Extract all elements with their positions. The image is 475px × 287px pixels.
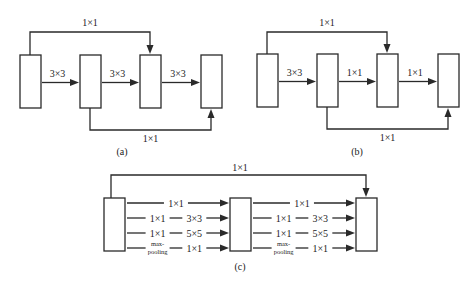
branch-op-label: 1×1 xyxy=(312,243,328,254)
feature-map-block xyxy=(257,54,278,107)
conv-label: 3×3 xyxy=(50,68,66,79)
arrowhead-right-icon xyxy=(346,230,355,237)
arrowhead-down-icon xyxy=(363,188,370,197)
bottom-skip-connection: 1×1 xyxy=(327,107,452,143)
arrowhead-right-icon xyxy=(70,79,79,86)
inception-branch: 1×1 xyxy=(127,198,229,209)
forward-arrow: 3×3 xyxy=(102,68,139,87)
arrowhead-right-icon xyxy=(220,230,229,237)
arrowhead-right-icon xyxy=(130,79,139,86)
arrowhead-right-icon xyxy=(191,79,200,86)
conv-label: 1×1 xyxy=(407,67,423,78)
arrowhead-down-icon xyxy=(384,44,391,53)
arrowhead-right-icon xyxy=(367,78,376,85)
feature-map-block xyxy=(201,55,222,108)
branch-op-label: 3×3 xyxy=(312,213,328,224)
skip-label: 1×1 xyxy=(380,132,396,143)
branch-op-label: 1×1 xyxy=(276,213,292,224)
bottom-skip-connection: 1×1 xyxy=(90,108,215,144)
top-skip-connection: 1×1 xyxy=(30,17,154,55)
feature-map-block xyxy=(80,55,101,108)
feature-map-block xyxy=(140,55,161,108)
branch-op-label: 1×1 xyxy=(294,198,310,209)
conv-label: 3×3 xyxy=(287,67,303,78)
arrowhead-up-icon xyxy=(208,109,215,118)
arrowhead-up-icon xyxy=(445,108,452,117)
branch-op-label: 1×1 xyxy=(150,228,166,239)
branch-op-label: 5×5 xyxy=(186,228,202,239)
arrowhead-right-icon xyxy=(307,78,316,85)
branch-op-label: max- xyxy=(151,240,164,247)
feature-map-block xyxy=(438,54,459,107)
skip-label: 1×1 xyxy=(319,17,335,28)
forward-arrow: 3×3 xyxy=(162,68,200,87)
conv-label: 3×3 xyxy=(170,68,186,79)
branch-op-label: 1×1 xyxy=(186,243,202,254)
feature-map-block xyxy=(104,198,125,251)
inception-branch: max-pooling1×1 xyxy=(127,240,229,255)
feature-map-block xyxy=(356,198,377,251)
skip-line xyxy=(30,32,150,55)
arrowhead-right-icon xyxy=(220,245,229,252)
branch-op-label: 1×1 xyxy=(150,213,166,224)
branch-op-label: pooling xyxy=(274,248,295,255)
branch-op-label: 5×5 xyxy=(312,228,328,239)
panel-c: 1×11×11×13×31×15×5max-pooling1×11×11×13×… xyxy=(104,162,377,273)
forward-arrow: 3×3 xyxy=(279,67,316,86)
conv-label: 1×1 xyxy=(347,67,363,78)
feature-map-block xyxy=(377,54,398,107)
skip-line xyxy=(90,108,211,130)
arrowhead-down-icon xyxy=(147,45,154,54)
inception-branch: max-pooling1×1 xyxy=(253,240,355,255)
top-skip-connection: 1×1 xyxy=(111,162,370,198)
arrowhead-right-icon xyxy=(220,215,229,222)
panel-b: 3×31×11×11×11×1(b) xyxy=(257,17,459,158)
network-architecture-diagram: 3×33×33×31×11×1(a)3×31×11×11×11×1(b)1×11… xyxy=(0,0,475,287)
conv-label: 3×3 xyxy=(110,68,126,79)
top-skip-connection: 1×1 xyxy=(267,17,391,54)
panel-caption: (b) xyxy=(351,146,363,158)
inception-branch: 1×13×3 xyxy=(253,213,355,224)
inception-branch: 1×13×3 xyxy=(127,213,229,224)
skip-line xyxy=(111,175,366,198)
panel-caption: (c) xyxy=(234,261,245,273)
feature-map-block xyxy=(230,198,251,251)
forward-arrow: 1×1 xyxy=(399,67,437,86)
arrowhead-right-icon xyxy=(428,78,437,85)
inception-branch: 1×1 xyxy=(253,198,355,209)
branch-op-label: 1×1 xyxy=(276,228,292,239)
inception-branch: 1×15×5 xyxy=(253,228,355,239)
branch-op-label: 1×1 xyxy=(168,198,184,209)
inception-branch: 1×15×5 xyxy=(127,228,229,239)
skip-label: 1×1 xyxy=(82,17,98,28)
forward-arrow: 1×1 xyxy=(339,67,376,86)
forward-arrow: 3×3 xyxy=(42,68,79,87)
skip-label: 1×1 xyxy=(143,133,159,144)
branch-op-label: max- xyxy=(277,240,290,247)
arrowhead-right-icon xyxy=(220,200,229,207)
arrowhead-right-icon xyxy=(346,215,355,222)
skip-line xyxy=(327,107,448,129)
arrowhead-right-icon xyxy=(346,245,355,252)
skip-label: 1×1 xyxy=(232,162,248,173)
branch-op-label: pooling xyxy=(148,248,169,255)
feature-map-block xyxy=(20,55,41,108)
skip-line xyxy=(267,32,387,54)
panel-caption: (a) xyxy=(116,146,127,158)
branch-op-label: 3×3 xyxy=(186,213,202,224)
arrowhead-right-icon xyxy=(346,200,355,207)
panel-a: 3×33×33×31×11×1(a) xyxy=(20,17,222,158)
feature-map-block xyxy=(317,54,338,107)
